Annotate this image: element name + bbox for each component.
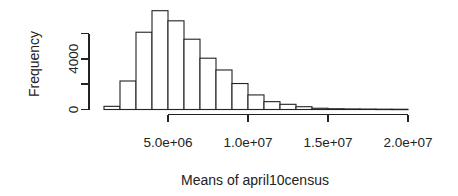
x-axis-tick-label: 2.0e+07: [383, 135, 432, 150]
histogram-bar: [104, 106, 120, 109]
histogram-bar: [200, 58, 216, 109]
histogram-bar: [264, 102, 280, 110]
x-axis-label: Means of april10census: [181, 172, 329, 188]
histogram-bar: [344, 109, 360, 110]
x-axis-tick-label: 1.0e+07: [223, 135, 272, 150]
histogram-bar: [168, 21, 184, 110]
histogram-bar: [296, 107, 312, 110]
x-axis: 5.0e+061.0e+071.5e+072.0e+07: [143, 115, 432, 150]
x-axis-tick-label: 1.5e+07: [303, 135, 352, 150]
y-axis-tick-label: 4000: [66, 44, 81, 74]
histogram-bar: [328, 109, 344, 110]
histogram-bar: [216, 70, 232, 110]
y-axis: 04000: [66, 34, 89, 114]
histogram-bar: [184, 39, 200, 109]
histogram-bar: [120, 81, 136, 110]
y-axis-tick-label: 0: [66, 106, 81, 114]
histogram-bar: [312, 108, 328, 109]
histogram-bar: [280, 104, 296, 109]
histogram-bar: [152, 11, 168, 110]
histogram-bar: [232, 84, 248, 110]
histogram-bar: [248, 95, 264, 110]
y-axis-label: Frequency: [26, 31, 42, 97]
histogram-bar: [136, 32, 152, 109]
histogram-figure: 5.0e+061.0e+071.5e+072.0e+07 04000 Means…: [0, 0, 458, 196]
bars-group: [104, 11, 408, 110]
histogram-plot: 5.0e+061.0e+071.5e+072.0e+07 04000 Means…: [0, 0, 458, 196]
x-axis-tick-label: 5.0e+06: [143, 135, 192, 150]
